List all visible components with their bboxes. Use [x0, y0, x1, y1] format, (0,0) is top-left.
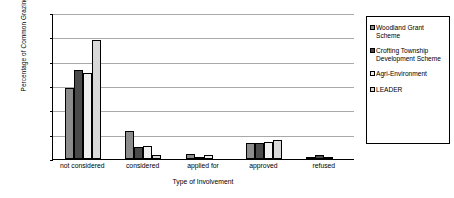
bar-group [53, 14, 113, 159]
x-axis-category-label: considered [112, 162, 172, 169]
bars-layer [53, 14, 354, 159]
bar [186, 154, 195, 159]
bar-group [234, 14, 294, 159]
bar [246, 143, 255, 159]
bar [74, 70, 83, 159]
y-axis-title: Percentage of Common Grazings (%) [20, 0, 27, 109]
bar [306, 157, 315, 159]
y-axis-tick [50, 160, 53, 161]
bar [264, 142, 273, 159]
bar [65, 88, 74, 159]
x-axis-title: Type of Involvement [52, 178, 354, 185]
legend-item: Crofting Township Development Scheme [370, 47, 446, 62]
bar [92, 40, 101, 159]
legend-label: Agri-Environment [376, 70, 427, 78]
x-axis-category-label: not considered [52, 162, 112, 169]
chart-legend: Woodland Grant SchemeCrofting Township D… [366, 16, 450, 144]
bar-group [113, 14, 173, 159]
bar-chart: Percentage of Common Grazings (%) 020406… [0, 0, 454, 198]
x-axis-category-label: refused [294, 162, 354, 169]
legend-label: LEADER [376, 86, 402, 94]
x-axis-category-labels: not consideredconsideredapplied forappro… [52, 162, 354, 169]
bar [315, 155, 324, 159]
legend-swatch-icon [370, 87, 375, 92]
legend-label: Woodland Grant Scheme [376, 24, 446, 39]
x-axis-category-label: approved [233, 162, 293, 169]
bar-group [294, 14, 354, 159]
legend-item: Woodland Grant Scheme [370, 24, 446, 39]
bar [324, 157, 333, 159]
legend-item: Agri-Environment [370, 70, 446, 78]
bar [255, 143, 264, 159]
bar [143, 146, 152, 159]
legend-label: Crofting Township Development Scheme [376, 47, 446, 62]
plot-area: 020406080100120 [52, 14, 354, 160]
legend-swatch-icon [370, 71, 375, 76]
bar [152, 155, 161, 159]
x-axis-category-label: applied for [173, 162, 233, 169]
legend-swatch-icon [370, 48, 375, 53]
bar [273, 140, 282, 159]
bar [204, 155, 213, 159]
bar-group [173, 14, 233, 159]
bar [195, 157, 204, 159]
bar [125, 131, 134, 159]
bar [83, 73, 92, 159]
legend-swatch-icon [370, 25, 375, 30]
legend-item: LEADER [370, 86, 446, 94]
bar [134, 147, 143, 159]
